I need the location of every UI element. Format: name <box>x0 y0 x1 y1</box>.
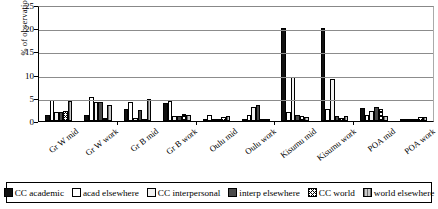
bar-group <box>39 7 78 121</box>
y-tick-25: 25 <box>25 2 34 11</box>
gridline-20 <box>39 30 433 31</box>
bar-group <box>157 7 196 121</box>
bar-group <box>236 7 275 121</box>
y-tick-mark-25 <box>34 6 38 7</box>
gridline-5 <box>39 100 433 101</box>
bar-group <box>394 7 433 121</box>
legend-item: CC interpersonal <box>147 188 221 198</box>
legend-item: CC academic <box>4 188 64 198</box>
bar-group <box>78 7 117 121</box>
y-tick-mark-5 <box>34 99 38 100</box>
legend-swatch-icon <box>147 188 156 197</box>
legend-swatch-icon <box>308 188 317 197</box>
legend-item: world elsewhere <box>363 188 434 198</box>
bar <box>281 28 286 121</box>
bar <box>147 99 152 121</box>
bar <box>344 116 349 121</box>
bar-group <box>315 7 354 121</box>
legend-swatch-icon <box>363 188 372 197</box>
legend-item: CC world <box>308 188 355 198</box>
bar <box>186 115 191 121</box>
legend-swatch-icon <box>72 188 81 197</box>
bar <box>68 101 73 121</box>
plot-axes <box>38 6 434 122</box>
bar <box>383 116 388 121</box>
y-tick-20: 20 <box>25 25 34 34</box>
bar-group <box>118 7 157 121</box>
y-tick-mark-0 <box>34 122 38 123</box>
y-tick-15: 15 <box>25 48 34 57</box>
bar-groups <box>39 7 433 121</box>
legend-label: acad elsewhere <box>83 188 139 198</box>
y-tick-mark-10 <box>34 76 38 77</box>
bar <box>321 28 326 121</box>
legend-label: CC world <box>319 188 355 198</box>
legend-item: acad elsewhere <box>72 188 139 198</box>
legend-label: world elsewhere <box>374 188 434 198</box>
bar-group <box>354 7 393 121</box>
y-tick-mark-15 <box>34 52 38 53</box>
gridline-15 <box>39 53 433 54</box>
plot-area: % of observations 0510152025 Gr W midGr … <box>0 0 438 176</box>
y-axis-tick-labels: 0510152025 <box>12 0 34 128</box>
x-axis-category-labels: Gr W midGr W workGr B midGr B workOulu m… <box>38 124 434 176</box>
gridline-10 <box>39 77 433 78</box>
bar <box>265 119 270 121</box>
legend-swatch-icon <box>228 188 237 197</box>
bar-chart-figure: % of observations 0510152025 Gr W midGr … <box>0 0 438 209</box>
legend-label: CC academic <box>15 188 64 198</box>
bar <box>304 117 309 121</box>
legend-item: interp elsewhere <box>228 188 299 198</box>
bar <box>107 105 112 121</box>
bar <box>423 117 428 121</box>
y-tick-10: 10 <box>25 71 34 80</box>
legend-swatch-icon <box>4 188 13 197</box>
bar-group <box>275 7 314 121</box>
chart-legend: CC academicacad elsewhereCC interpersona… <box>6 182 432 203</box>
y-tick-mark-20 <box>34 29 38 30</box>
bar <box>226 116 231 121</box>
bar-group <box>197 7 236 121</box>
legend-label: interp elsewhere <box>239 188 299 198</box>
legend-label: CC interpersonal <box>158 188 221 198</box>
